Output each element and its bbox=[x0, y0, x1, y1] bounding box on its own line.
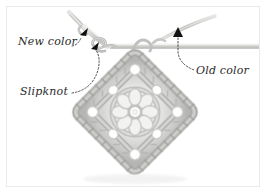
annotation-label-slipknot: Slipknot bbox=[20, 85, 68, 98]
annotation-label-new-color: New color bbox=[18, 35, 77, 48]
annotation-label-old-color: Old color bbox=[196, 64, 249, 77]
crochet-instruction-figure: New color Slipknot Old color bbox=[0, 0, 268, 195]
motif-shadow bbox=[83, 174, 187, 184]
